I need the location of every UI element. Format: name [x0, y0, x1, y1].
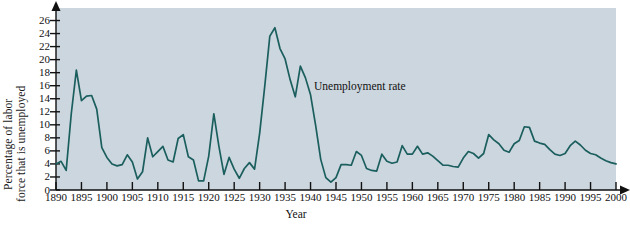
x-axis-tick-label: 1915: [172, 192, 194, 203]
x-axis-tick-label: 1920: [198, 192, 220, 203]
x-axis-tick-label: 1950: [350, 192, 372, 203]
y-axis-label-line2: force that is unemployed: [15, 86, 27, 202]
x-axis-tick-label: 1925: [223, 192, 245, 203]
y-axis-tick-label: 4: [45, 158, 51, 169]
x-axis-tick-labels: 1890189519001905191019151920192519301935…: [0, 192, 630, 208]
series-annotation: Unemployment rate: [314, 80, 406, 92]
x-axis-tick-label: 1890: [45, 192, 67, 203]
plot-background: [56, 8, 616, 190]
y-axis-tick-label: 8: [45, 132, 51, 143]
x-axis-tick-label: 1960: [401, 192, 423, 203]
y-axis-tick-label: 18: [39, 67, 50, 78]
x-axis-tick-label: 1935: [274, 192, 296, 203]
y-axis-tick-label: 26: [39, 15, 50, 26]
x-axis-tick-label: 2000: [605, 192, 627, 203]
y-axis-tick-label: 2: [45, 171, 51, 182]
x-axis-tick-label: 1930: [249, 192, 271, 203]
x-axis-label: Year: [0, 208, 630, 220]
x-axis-label-text: Year: [285, 208, 306, 220]
x-axis-tick-label: 1975: [478, 192, 500, 203]
y-axis-tick-label: 22: [39, 41, 50, 52]
x-axis-tick-label: 1900: [96, 192, 118, 203]
y-axis-tick-label: 24: [39, 28, 50, 39]
y-axis-tick-label: 6: [45, 145, 51, 156]
x-axis-tick-label: 1945: [325, 192, 347, 203]
x-axis-tick-label: 1985: [529, 192, 551, 203]
x-axis-tick-label: 1940: [300, 192, 322, 203]
y-axis-tick-label: 16: [39, 80, 50, 91]
x-axis-tick-label: 1910: [147, 192, 169, 203]
y-axis-tick-label: 14: [39, 93, 50, 104]
y-axis-tick-label: 10: [39, 119, 50, 130]
x-axis-tick-label: 1995: [580, 192, 602, 203]
x-axis-tick-label: 1955: [376, 192, 398, 203]
y-axis-tick-labels: 02468101214161820222426: [28, 0, 50, 200]
y-axis-tick-label: 12: [39, 106, 50, 117]
unemployment-rate-chart: Percentage of labor force that is unempl…: [0, 0, 630, 228]
x-axis-tick-label: 1965: [427, 192, 449, 203]
x-axis-tick-label: 1905: [121, 192, 143, 203]
x-axis-tick-label: 1990: [554, 192, 576, 203]
x-axis-tick-label: 1980: [503, 192, 525, 203]
x-axis-tick-label: 1970: [452, 192, 474, 203]
y-axis-tick-label: 20: [39, 54, 50, 65]
x-axis-tick-label: 1895: [70, 192, 92, 203]
y-axis-label-line1: Percentage of labor: [2, 99, 14, 190]
